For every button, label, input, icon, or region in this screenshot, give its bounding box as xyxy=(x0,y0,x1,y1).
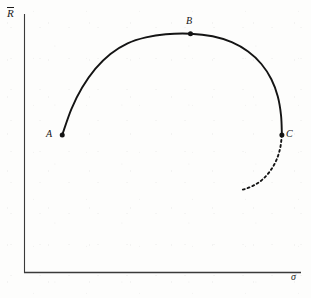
figure-container: R σ A B C xyxy=(0,0,311,298)
data-point-marker-c xyxy=(279,132,284,137)
point-label-b: B xyxy=(186,16,192,26)
point-label-c: C xyxy=(286,129,293,139)
y-axis-label-text: R xyxy=(7,7,14,19)
point-label-a: A xyxy=(46,129,52,139)
data-point-marker-a xyxy=(60,132,65,137)
x-axis-label: σ xyxy=(291,272,296,282)
curve-solid-arc xyxy=(62,34,282,135)
curve-dashed-extension xyxy=(241,135,281,190)
figure-canvas xyxy=(0,0,311,298)
data-point-marker-b xyxy=(188,31,193,36)
y-axis-label: R xyxy=(7,7,14,19)
